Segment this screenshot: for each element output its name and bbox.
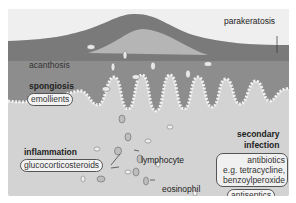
skin-diagram: parakeratosis acanthosis spongiosis emol… bbox=[8, 9, 289, 196]
antibiotics-line2: e.g. tetracycline, bbox=[219, 165, 285, 175]
emollients-treatment: emollients bbox=[27, 93, 73, 106]
inflammation-label: inflammation bbox=[24, 148, 77, 157]
lymphocyte-label: lymphocyte bbox=[141, 156, 184, 165]
antibiotics-line1: antibiotics bbox=[219, 155, 285, 165]
spongiosis-label: spongiosis bbox=[29, 82, 74, 91]
secondary-infection-label-line2: infection bbox=[244, 141, 279, 150]
antiseptics-treatment: antiseptics bbox=[227, 189, 275, 196]
acanthosis-label: acanthosis bbox=[29, 61, 70, 70]
antibiotics-line3: benzoylperoxide bbox=[219, 175, 285, 185]
antibiotics-treatment: antibiotics e.g. tetracycline, benzoylpe… bbox=[216, 153, 288, 187]
eosinophil-label: eosinophil bbox=[162, 185, 200, 194]
secondary-infection-label-line1: secondary bbox=[237, 130, 280, 139]
parakeratosis-label: parakeratosis bbox=[224, 17, 275, 26]
glucocorticosteroids-treatment: glucocorticosteroids bbox=[20, 159, 103, 172]
